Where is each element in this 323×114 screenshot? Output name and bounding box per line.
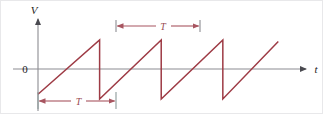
origin-label: 0 [22, 63, 28, 75]
period-dimension-top: T [116, 20, 200, 32]
vertical-axis-label: V [31, 4, 39, 16]
period-top-label: T [160, 21, 167, 32]
axis-group [13, 19, 306, 111]
horizontal-axis-label: t [314, 63, 318, 75]
sawtooth-waveform-figure: V t 0 T T [0, 0, 323, 114]
period-bottom-label: T [76, 96, 83, 107]
waveform-chart-svg: V t 0 T T [1, 1, 323, 114]
